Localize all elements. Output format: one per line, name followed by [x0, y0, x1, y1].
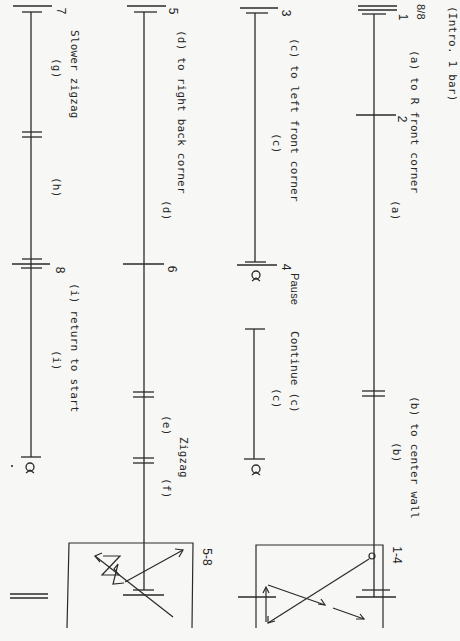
- label-f: (f): [160, 478, 172, 498]
- annotation-d: (d) to right back corner: [175, 30, 187, 194]
- continue-text: Continue (c): [288, 331, 300, 413]
- bar-number-5: 5: [166, 8, 180, 15]
- floor-pattern-5-8: [67, 543, 193, 628]
- bar-number-7: 7: [54, 8, 68, 15]
- diagram-label-1-4: 1-4: [390, 546, 404, 563]
- pause-text: Pause: [289, 273, 301, 305]
- annotation-a: (a) to R front corner: [408, 50, 420, 193]
- label-b: (b): [390, 442, 402, 462]
- annotation-slower-zigzag: Slower zigzag: [68, 30, 80, 119]
- label-h: (h): [50, 177, 62, 197]
- label-e: (e): [160, 415, 172, 435]
- label-d: (d): [160, 200, 172, 220]
- annotation-c: (c) to left front corner: [288, 38, 300, 202]
- label-i: (i): [50, 350, 62, 370]
- bar-number-8: 8: [53, 267, 67, 274]
- label-a: (a): [389, 200, 401, 220]
- bar-number-4: 4: [279, 264, 293, 271]
- meter-signature: 8/8: [415, 4, 427, 20]
- bar-number-1: 1: [396, 14, 410, 21]
- zigzag-text: Zigzag: [177, 437, 189, 478]
- bar-number-6: 6: [165, 266, 179, 273]
- annotation-i: (i) return to start: [68, 283, 80, 413]
- label-c-2: (c): [270, 388, 282, 408]
- label-c: (c): [270, 133, 282, 153]
- notation-page: (Intro. 1 bar) 8/8 1 2 3 4 5 6 7 8 (a) t…: [0, 0, 460, 641]
- intro-text: (Intro. 1 bar): [446, 6, 458, 102]
- label-g: (g): [50, 58, 62, 78]
- bar-number-3: 3: [279, 10, 293, 17]
- annotation-b: (b) to center wall: [408, 396, 420, 519]
- floor-pattern-1-4: [256, 545, 383, 628]
- diagram-label-5-8: 5-8: [200, 548, 214, 565]
